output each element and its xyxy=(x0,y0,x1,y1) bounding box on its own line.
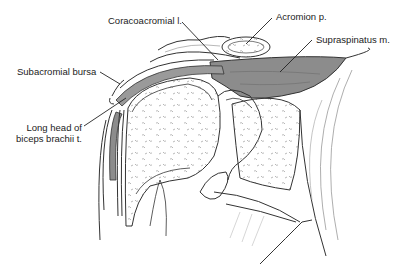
label-acromion-process: Acromion p. xyxy=(276,11,327,22)
biceps-tendon xyxy=(110,112,122,180)
label-supraspinatus-muscle: Supraspinatus m. xyxy=(316,34,390,45)
label-biceps-line2: biceps brachii t. xyxy=(16,133,82,144)
leader-coracoacromial xyxy=(182,22,218,60)
acromion xyxy=(222,37,270,57)
label-subacromial-bursa: Subacromial bursa xyxy=(17,66,96,77)
label-coracoacromial-ligament: Coracoacromial l. xyxy=(108,15,182,26)
scapula-body xyxy=(232,98,300,190)
label-biceps-line1: Long head of xyxy=(24,122,82,133)
anatomy-diagram: Coracoacromial l. Acromion p. Supraspina… xyxy=(0,0,400,264)
supraspinatus-muscle xyxy=(210,57,346,99)
leader-subacromial-bursa xyxy=(100,72,120,84)
humeral-head xyxy=(125,78,220,226)
